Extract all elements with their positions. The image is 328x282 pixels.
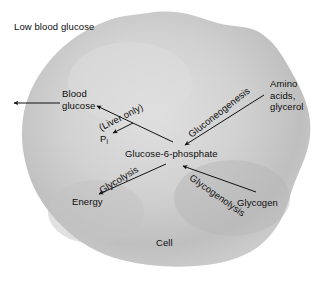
label-glucose-6-phosphate: Glucose-6-phosphate xyxy=(125,148,218,160)
blood-glucose-line-1: Blood xyxy=(62,88,87,99)
amino-acids-line-2: acids, xyxy=(270,90,295,101)
label-inorganic-phosphate: Pi xyxy=(100,133,108,148)
label-low-blood-glucose: Low blood glucose xyxy=(14,21,94,33)
diagram-canvas: Low blood glucose Bloodglucose (Liver on… xyxy=(0,0,328,282)
label-glycogen: Glycogen xyxy=(237,197,278,209)
label-energy: Energy xyxy=(72,196,103,208)
amino-acids-line-3: glycerol xyxy=(270,101,304,112)
label-amino-acids-glycerol: Aminoacids,glycerol xyxy=(270,78,304,113)
label-blood-glucose: Bloodglucose xyxy=(62,88,95,111)
pi-subscript: i xyxy=(106,138,108,145)
blood-glucose-line-2: glucose xyxy=(62,100,95,111)
label-cell: Cell xyxy=(156,237,173,249)
amino-acids-line-1: Amino xyxy=(270,78,297,89)
